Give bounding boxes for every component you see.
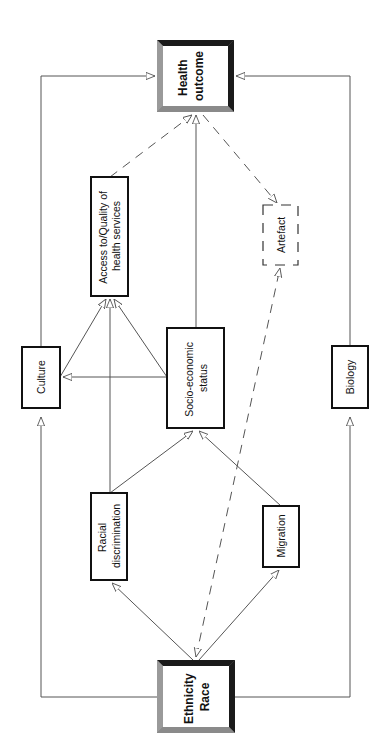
node-artefact: Artefact	[263, 205, 298, 265]
edge-ses-to-access	[114, 299, 167, 377]
culture-label: Culture	[35, 360, 47, 394]
access-label-2: health services	[110, 201, 122, 271]
edge-health-to-artefact	[203, 115, 277, 203]
node-socio-economic-status: Socio-economic status	[167, 328, 224, 428]
node-racial-discrimination: Racial discrimination	[91, 493, 127, 580]
health-outcome-label-1: Health	[176, 59, 190, 96]
node-access-health-services: Access to/Quality of health services	[91, 177, 128, 296]
ses-label-1: Socio-economic	[183, 342, 195, 417]
edge-racial-discrimination-to-ses	[110, 431, 193, 493]
edge-access-to-health	[110, 115, 192, 177]
node-culture: Culture	[22, 347, 60, 408]
edge-ethnicity-artefact	[196, 268, 280, 657]
racial-label: Racial	[96, 523, 108, 552]
edge-culture-to-access	[60, 299, 106, 377]
artefact-label: Artefact	[275, 217, 287, 253]
node-health-outcome: Health outcome	[157, 40, 234, 112]
edge-ethnicity-to-migration	[199, 570, 279, 660]
svg-text:Artefact: Artefact	[275, 217, 287, 253]
node-biology: Biology	[332, 346, 368, 408]
access-label-1: Access to/Quality of	[97, 191, 109, 284]
ses-label-2: status	[197, 364, 209, 392]
ethnicity-label: Ethnicity	[182, 673, 196, 724]
edge-migration-to-ses	[199, 431, 281, 506]
causal-diagram: Health outcome Ethnicity Race Access to/…	[0, 0, 388, 755]
svg-text:Migration: Migration	[275, 514, 287, 557]
node-migration: Migration	[263, 506, 299, 567]
edge-ethnicity-to-racial-discrimination	[112, 583, 193, 660]
svg-text:Culture: Culture	[35, 360, 47, 394]
discrimination-label: discrimination	[110, 504, 122, 568]
race-label: Race	[198, 682, 212, 711]
biology-label: Biology	[344, 359, 356, 394]
svg-text:Access to/Quality of hea: Access to/Quality of health services	[97, 188, 122, 284]
migration-label: Migration	[275, 514, 287, 557]
node-ethnicity-race: Ethnicity Race	[157, 660, 235, 733]
health-outcome-label-2: outcome	[192, 51, 206, 101]
svg-text:Biology: Biology	[344, 359, 356, 394]
